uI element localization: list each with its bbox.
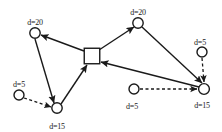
graph-node-square[interactable] (84, 48, 100, 64)
node-demand-label: d=5 (126, 103, 138, 111)
edges-layer (24, 27, 204, 107)
node-demand-label: d=5 (13, 81, 25, 89)
graph-node-circle[interactable] (197, 47, 207, 57)
node-demand-label: d=20 (130, 9, 146, 17)
node-demand-label: d=20 (27, 19, 43, 27)
graph-node-circle[interactable] (199, 84, 210, 95)
node-demand-label: d=15 (194, 102, 210, 110)
graph-edge-solid (99, 27, 134, 50)
graph-edge-dashed (24, 98, 51, 107)
graph-node-circle[interactable] (129, 84, 139, 94)
graph-node-circle[interactable] (14, 90, 24, 100)
graph-node-circle[interactable] (30, 28, 40, 38)
graph-edge-solid (61, 65, 87, 104)
graph-edge-solid (35, 39, 54, 103)
graph-edge-solid (41, 35, 84, 51)
diagram-canvas: d=20d=20d=5d=15d=5d=15d=5 (0, 0, 222, 132)
graph-node-circle[interactable] (133, 18, 143, 28)
node-demand-label: d=5 (194, 39, 206, 47)
node-demand-label: d=15 (49, 123, 65, 131)
graph-edge-dashed (202, 58, 204, 82)
graph-node-circle[interactable] (52, 103, 62, 113)
